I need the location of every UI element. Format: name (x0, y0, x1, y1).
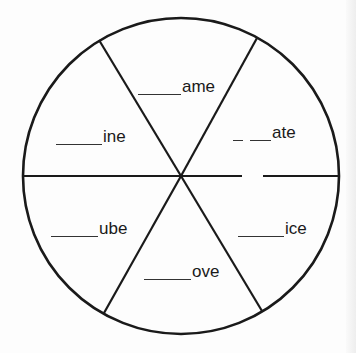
answer-blank[interactable] (56, 131, 102, 145)
answer-blank[interactable] (51, 223, 98, 237)
answer-blank[interactable] (233, 127, 243, 141)
divider-upper-left (99, 40, 181, 176)
word-wheel-diagram (0, 0, 356, 353)
word-ending: ove (192, 263, 219, 280)
divider-lower-left (104, 176, 181, 313)
word-ending: ame (182, 78, 215, 95)
divider-lower-right (181, 176, 262, 311)
answer-blank[interactable] (138, 81, 181, 95)
page-edge-shadow (346, 0, 356, 353)
word-ending: ice (285, 220, 307, 237)
segment-upper-left-label: ine (56, 128, 126, 145)
answer-blank[interactable] (250, 127, 271, 141)
word-ending: ate (272, 124, 296, 141)
segment-bottom-label: ove (144, 263, 219, 280)
answer-blank[interactable] (144, 266, 191, 280)
segment-upper-right-label: ate (233, 124, 296, 141)
divider-upper-right (181, 38, 257, 176)
word-ending: ine (103, 128, 126, 145)
segment-top-label: ame (138, 78, 215, 95)
word-ending: ube (99, 220, 127, 237)
segment-lower-right-label: ice (238, 220, 307, 237)
answer-blank[interactable] (238, 223, 284, 237)
segment-lower-left-label: ube (51, 220, 127, 237)
